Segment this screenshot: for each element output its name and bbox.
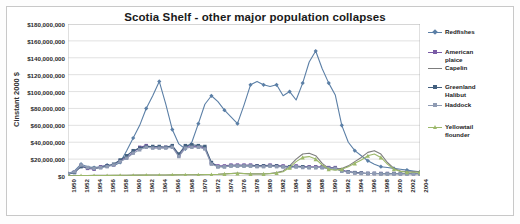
legend-swatch-icon — [428, 124, 442, 131]
x-tick-label: 1972 — [214, 179, 221, 193]
data-point-marker — [138, 148, 141, 151]
legend-item-haddock[interactable]: Haddock — [428, 101, 471, 109]
y-tick-label: $100,000,000 — [27, 88, 65, 95]
legend-label: Redfishes — [445, 28, 475, 36]
x-tick-label: 1976 — [240, 179, 247, 193]
data-point-marker — [255, 165, 258, 168]
x-tick-label: 1978 — [253, 179, 260, 193]
legend-swatch-icon — [428, 65, 442, 72]
plot-svg — [68, 24, 420, 176]
data-point-marker — [366, 172, 369, 175]
x-tick-label: 1956 — [109, 179, 116, 193]
x-tick-label: 2002 — [409, 179, 416, 193]
data-point-marker — [327, 81, 331, 85]
data-point-marker — [99, 166, 102, 169]
y-tick-label: $60,000,000 — [31, 122, 65, 129]
y-tick-label: $80,000,000 — [31, 105, 65, 112]
x-tick-label: 1954 — [96, 179, 103, 193]
data-point-marker — [86, 166, 89, 169]
legend-swatch-icon — [428, 102, 442, 109]
legend-swatch-icon — [428, 84, 442, 91]
y-tick-label: $20,000,000 — [31, 156, 65, 163]
legend-label: Greenland Halibut — [445, 83, 476, 98]
data-point-marker — [360, 172, 363, 175]
data-point-marker — [190, 146, 193, 149]
data-point-marker — [262, 165, 265, 168]
y-tick-label: $0 — [58, 173, 65, 180]
legend-label: American plaice — [445, 48, 473, 63]
data-point-marker — [249, 164, 252, 167]
data-point-marker — [112, 163, 115, 166]
data-point-marker — [216, 165, 219, 168]
x-tick-label: 1950 — [70, 179, 77, 193]
y-tick-label: $160,000,000 — [27, 37, 65, 44]
data-point-marker — [268, 164, 271, 167]
x-tick-label: 1960 — [135, 179, 142, 193]
x-tick-label: 1992 — [344, 179, 351, 193]
x-tick-label: 1988 — [318, 179, 325, 193]
data-point-marker — [236, 164, 239, 167]
data-point-marker — [131, 152, 134, 155]
data-point-marker — [203, 147, 206, 150]
data-point-marker — [379, 165, 383, 169]
y-tick-label: $140,000,000 — [27, 54, 65, 61]
data-point-marker — [223, 165, 226, 168]
data-point-marker — [92, 167, 95, 170]
data-point-marker — [157, 79, 161, 83]
x-tick-label: 1996 — [370, 179, 377, 193]
chart-container: Scotia Shelf - other major population co… — [0, 0, 520, 224]
data-point-marker — [353, 171, 356, 174]
legend-item-greenland-halibut[interactable]: Greenland Halibut — [428, 83, 476, 98]
data-point-marker — [281, 165, 284, 168]
data-point-marker — [399, 172, 402, 175]
chart-title: Scotia Shelf - other major population co… — [110, 11, 400, 23]
data-point-marker — [242, 164, 245, 167]
legend-label: Haddock — [445, 101, 471, 109]
data-point-marker — [197, 146, 200, 149]
data-point-marker — [294, 165, 297, 168]
data-point-marker — [392, 172, 395, 175]
y-tick-label: $40,000,000 — [31, 139, 65, 146]
x-tick-label: 1994 — [357, 179, 364, 193]
legend-label: Yellowtail flounder — [445, 123, 473, 138]
legend-item-capelin[interactable]: Capelin — [428, 64, 467, 72]
legend-label: Capelin — [445, 64, 467, 72]
x-tick-label: 1970 — [201, 179, 208, 193]
data-point-marker — [151, 146, 154, 149]
data-point-marker — [184, 146, 187, 149]
data-point-marker — [301, 81, 305, 85]
data-point-marker — [229, 164, 232, 167]
x-tick-label: 1966 — [174, 179, 181, 193]
data-point-marker — [105, 165, 108, 168]
data-point-marker — [261, 83, 265, 87]
data-point-marker — [73, 170, 76, 173]
x-tick-label: 1984 — [292, 179, 299, 193]
x-tick-label: 1982 — [279, 179, 286, 193]
x-tick-label: 1958 — [122, 179, 129, 193]
legend-item-redfishes[interactable]: Redfishes — [428, 28, 475, 36]
chart-legend: RedfishesAmerican plaiceCapelinGreenland… — [428, 28, 516, 148]
x-tick-label: 1964 — [161, 179, 168, 193]
data-point-marker — [118, 160, 121, 163]
x-tick-label: 2004 — [422, 179, 429, 193]
y-tick-label: $180,000,000 — [27, 21, 65, 28]
y-axis-tick-labels: $180,000,000$160,000,000$140,000,000$120… — [0, 24, 65, 176]
data-point-marker — [314, 166, 317, 169]
legend-item-yellowtail-flounder[interactable]: Yellowtail flounder — [428, 123, 473, 138]
plot-area — [68, 24, 420, 176]
x-tick-label: 2000 — [396, 179, 403, 193]
data-point-marker — [353, 161, 357, 165]
x-tick-label: 1974 — [227, 179, 234, 193]
data-point-marker — [307, 166, 310, 169]
x-tick-label: 1990 — [331, 179, 338, 193]
legend-swatch-icon — [428, 29, 442, 36]
legend-item-american-plaice[interactable]: American plaice — [428, 48, 473, 63]
data-point-marker — [177, 155, 180, 158]
data-point-marker — [386, 172, 389, 175]
x-axis-tick-labels: 1950195219541956195819601962196419661968… — [68, 179, 420, 219]
data-point-marker — [379, 172, 382, 175]
data-point-marker — [170, 127, 174, 131]
data-point-marker — [164, 146, 167, 149]
data-point-marker — [275, 165, 278, 168]
x-tick-label: 1952 — [83, 179, 90, 193]
